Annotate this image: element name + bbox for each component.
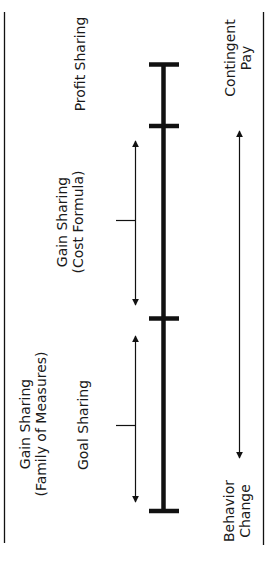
- label-profit-sharing-line1: Profit Sharing: [72, 17, 88, 112]
- label-behavior-change-line2: Change: [237, 480, 253, 542]
- label-contingent-pay-line2: Pay: [238, 19, 254, 96]
- label-goal-sharing-line1: Goal Sharing: [75, 380, 91, 470]
- label-contingent-pay: Contingent Pay: [222, 19, 254, 96]
- label-goal-sharing: Goal Sharing: [75, 380, 91, 470]
- label-gain-sharing-family-line2: (Family of Measures): [33, 351, 49, 496]
- label-profit-sharing: Profit Sharing: [72, 17, 88, 112]
- label-gain-sharing-cost-formula: Gain Sharing (Cost Formula): [54, 170, 86, 273]
- label-behavior-change-line1: Behavior: [221, 480, 237, 542]
- label-contingent-pay-line1: Contingent: [222, 19, 238, 96]
- label-behavior-change: Behavior Change: [221, 480, 253, 542]
- label-gain-sharing-family-of-measures: Gain Sharing (Family of Measures): [17, 351, 49, 496]
- label-gain-sharing-cost-formula-line1: Gain Sharing: [54, 170, 70, 273]
- label-gain-sharing-cost-formula-line2: (Cost Formula): [70, 170, 86, 273]
- label-gain-sharing-family-line1: Gain Sharing: [17, 351, 33, 496]
